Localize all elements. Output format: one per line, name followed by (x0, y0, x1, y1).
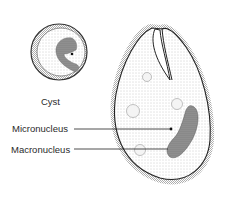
ciliate-cell (111, 24, 215, 184)
vacuole (135, 145, 146, 156)
ciliate-diagram (0, 0, 227, 198)
vacuole (127, 105, 140, 118)
vacuole (143, 73, 152, 82)
cyst-micronucleus (71, 53, 74, 56)
cyst (31, 24, 87, 80)
micronucleus-label: Micronucleus (12, 124, 68, 134)
macronucleus-label: Macronucleus (11, 145, 70, 155)
vacuole (172, 99, 183, 110)
cyst-label: Cyst (41, 97, 60, 107)
